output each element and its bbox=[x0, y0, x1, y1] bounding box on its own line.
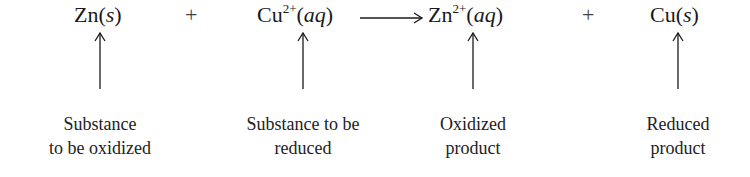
up-arrow-icon bbox=[94, 32, 106, 89]
species-zn-solid: Zn(s) bbox=[74, 2, 122, 28]
up-arrow-icon bbox=[672, 32, 684, 89]
species-charge: 2+ bbox=[452, 1, 466, 16]
species-symbol: Cu bbox=[257, 2, 283, 27]
reaction-arrow-icon bbox=[360, 10, 424, 26]
label-line: reduced bbox=[218, 136, 388, 160]
label-line: Substance to be bbox=[218, 112, 388, 136]
plus-sign: + bbox=[185, 2, 197, 28]
label-oxidized-product: Oxidized product bbox=[413, 112, 533, 160]
species-symbol: Zn bbox=[74, 2, 98, 27]
label-line: Reduced bbox=[618, 112, 738, 136]
up-arrow-icon bbox=[467, 32, 479, 89]
label-line: Oxidized bbox=[413, 112, 533, 136]
label-line: product bbox=[618, 136, 738, 160]
species-symbol: Zn bbox=[428, 2, 452, 27]
species-state: s bbox=[106, 2, 115, 27]
species-zn-ion: Zn2+(aq) bbox=[428, 2, 503, 28]
up-arrow-icon bbox=[297, 32, 309, 89]
label-line: product bbox=[413, 136, 533, 160]
species-cu-ion: Cu2+(aq) bbox=[257, 2, 333, 28]
species-state: aq bbox=[304, 2, 326, 27]
label-line: Substance bbox=[20, 112, 180, 136]
label-substance-oxidized: Substance to be oxidized bbox=[20, 112, 180, 160]
label-line: to be oxidized bbox=[20, 136, 180, 160]
label-substance-reduced: Substance to be reduced bbox=[218, 112, 388, 160]
species-charge: 2+ bbox=[283, 1, 297, 16]
species-state: s bbox=[683, 2, 692, 27]
species-symbol: Cu bbox=[650, 2, 676, 27]
species-state: aq bbox=[474, 2, 496, 27]
label-reduced-product: Reduced product bbox=[618, 112, 738, 160]
plus-sign: + bbox=[582, 2, 594, 28]
species-cu-solid: Cu(s) bbox=[650, 2, 699, 28]
